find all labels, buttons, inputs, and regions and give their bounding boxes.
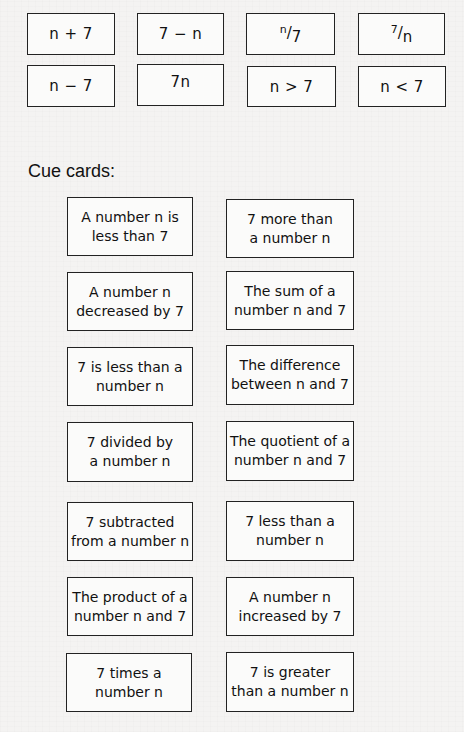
expression-text: n < 7 [380,78,424,96]
cue-line-1: A number n [76,283,184,302]
expression-card-n-minus-7[interactable]: n − 7 [27,65,115,107]
expression-text: 7n [170,73,190,91]
cue-card-text: A number n isless than 7 [79,208,181,246]
cue-card-text: 7 subtractedfrom a number n [69,513,191,551]
fraction-denominator: n [403,28,413,46]
cue-line-2: number n [77,377,182,396]
cue-card-text: A number ndecreased by 7 [74,283,186,321]
fraction-numerator: n [280,23,287,36]
cue-line-2: number n [245,531,335,550]
cue-card[interactable]: 7 divided bya number n [67,422,193,482]
cue-line-2: between n and 7 [231,375,349,394]
cue-card-text: The product of anumber n and 7 [70,588,189,626]
cue-card[interactable]: 7 is less than anumber n [67,347,193,406]
cue-line-2: number n and 7 [230,451,350,470]
expression-text: n > 7 [270,78,314,96]
cue-card[interactable]: A number nincreased by 7 [226,577,354,636]
cue-line-1: The difference [231,356,349,375]
cue-card-text: 7 times anumber n [93,664,165,702]
expression-text: n − 7 [49,77,93,95]
cue-card-text: 7 less than anumber n [243,512,337,550]
cue-line-2: a number n [87,452,173,471]
fraction-expression: n/7 [280,23,302,46]
expression-text: n + 7 [49,25,93,43]
cue-card[interactable]: The product of anumber n and 7 [67,577,193,636]
cue-card-text: A number nincreased by 7 [237,588,344,626]
cue-line-1: 7 is greater [231,663,348,682]
cue-card-text: The quotient of anumber n and 7 [228,432,352,470]
cue-line-1: 7 more than [247,210,333,229]
cue-line-1: 7 is less than a [77,358,182,377]
cue-line-1: A number n is [81,208,179,227]
cue-card[interactable]: A number n isless than 7 [67,197,193,256]
cue-line-1: 7 less than a [245,512,335,531]
cue-line-1: The sum of a [234,282,346,301]
fraction-denominator: 7 [292,28,302,46]
cue-card[interactable]: 7 is greaterthan a number n [226,652,354,712]
cue-line-2: from a number n [71,532,189,551]
cue-card[interactable]: 7 more thana number n [226,199,354,258]
cue-card-text: The differencebetween n and 7 [229,356,351,394]
cue-card[interactable]: A number ndecreased by 7 [67,272,193,331]
cue-line-2: number n [95,683,163,702]
cue-card-text: 7 is greaterthan a number n [229,663,350,701]
cue-line-1: The quotient of a [230,432,350,451]
cue-card[interactable]: 7 less than anumber n [226,501,354,561]
cue-line-2: increased by 7 [239,607,342,626]
fraction-numerator: 7 [391,23,398,36]
cue-line-2: less than 7 [81,227,179,246]
expression-card-n-greater-than-7[interactable]: n > 7 [247,66,336,107]
cue-card[interactable]: 7 times anumber n [66,653,192,712]
expression-text: 7 − n [159,25,203,43]
fraction-expression: 7/n [391,23,413,46]
cue-line-2: number n and 7 [72,607,187,626]
expression-card-n-over-7[interactable]: n/7 [246,13,335,55]
cue-line-2: number n and 7 [234,301,346,320]
cue-line-2: decreased by 7 [76,302,184,321]
cue-card[interactable]: The quotient of anumber n and 7 [226,421,354,481]
expression-card-7-minus-n[interactable]: 7 − n [137,13,224,55]
expression-card-7-over-n[interactable]: 7/n [358,13,445,55]
cue-line-1: A number n [239,588,342,607]
cue-card-text: 7 is less than anumber n [75,358,184,396]
cue-line-1: The product of a [72,588,187,607]
expression-card-7n[interactable]: 7n [137,64,224,106]
cue-card[interactable]: The sum of anumber n and 7 [226,271,354,330]
cue-line-2: a number n [247,229,333,248]
expression-card-n-plus-7[interactable]: n + 7 [27,13,115,55]
cue-card-text: 7 more thana number n [245,210,335,248]
cue-cards-heading: Cue cards: [28,161,115,182]
cue-card-text: The sum of anumber n and 7 [232,282,348,320]
cue-line-1: 7 divided by [87,433,173,452]
cue-card[interactable]: The differencebetween n and 7 [226,345,354,405]
cue-line-1: 7 subtracted [71,513,189,532]
cue-card[interactable]: 7 subtractedfrom a number n [67,502,193,561]
cue-card-text: 7 divided bya number n [85,433,175,471]
cue-line-1: 7 times a [95,664,163,683]
cue-line-2: than a number n [231,682,348,701]
expression-card-n-less-than-7[interactable]: n < 7 [358,66,446,107]
